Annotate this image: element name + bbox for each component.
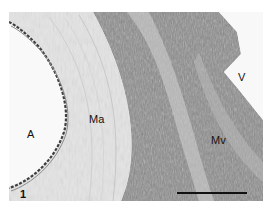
micrograph (9, 12, 263, 201)
tissue-illustration (9, 12, 263, 201)
label-vein-media: Mv (211, 135, 226, 146)
panel-number: 1 (20, 189, 26, 200)
label-vein-lumen: V (238, 72, 245, 83)
label-artery-lumen: A (27, 129, 34, 140)
scale-bar (177, 192, 247, 194)
label-artery-media: Ma (89, 114, 104, 125)
